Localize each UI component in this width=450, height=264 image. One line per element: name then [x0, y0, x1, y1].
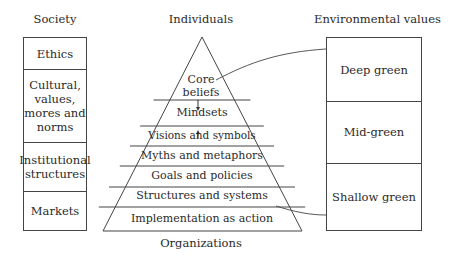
pyramid-visions: Visions and symbols: [148, 129, 255, 141]
pyramid-core-beliefs: Core beliefs: [183, 73, 220, 99]
pyramid-structures: Structures and systems: [136, 189, 268, 202]
pyramid-mindsets: Mindsets: [176, 106, 227, 119]
core-line: beliefs: [183, 86, 220, 99]
core-line: Core: [183, 73, 220, 86]
pyramid-goals: Goals and policies: [151, 169, 252, 182]
diagram: Society Individuals Environmental values…: [0, 0, 450, 264]
pyramid-implementation: Implementation as action: [131, 212, 273, 225]
pyramid-myths: Myths and metaphors: [141, 149, 263, 162]
